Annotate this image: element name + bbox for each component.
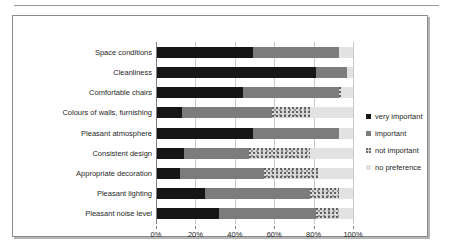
bar-segment xyxy=(339,188,353,199)
legend-swatch-icon xyxy=(366,165,371,170)
bar-segment xyxy=(219,208,316,219)
bar-segment xyxy=(316,67,348,78)
bar-segment xyxy=(180,168,265,179)
gridline xyxy=(353,42,354,224)
chart-page: Space conditionsCleanlinessComfortable c… xyxy=(0,0,453,250)
category-label: Consistent design xyxy=(27,149,152,158)
bar-segment xyxy=(310,148,353,159)
bar-segment xyxy=(339,47,353,58)
category-label: Pleasant lighting xyxy=(27,189,152,198)
bar-segment xyxy=(156,87,243,98)
x-axis-tick-labels: 0%20%40%60%80%100% xyxy=(156,226,353,240)
legend-item[interactable]: not important xyxy=(366,146,438,155)
category-label: Cleanliness xyxy=(27,68,152,77)
y-axis-category-labels: Space conditionsCleanlinessComfortable c… xyxy=(27,42,152,224)
bar-segment xyxy=(243,87,340,98)
bar-segment xyxy=(249,148,310,159)
x-axis-tick-label: 40% xyxy=(227,230,242,240)
bar-segment xyxy=(253,128,340,139)
x-axis-tick-label: 20% xyxy=(188,230,203,240)
x-axis-tick-mark xyxy=(156,226,157,229)
bar-segment xyxy=(272,107,309,118)
bar-segment xyxy=(156,208,219,219)
legend-swatch-icon xyxy=(366,148,371,153)
bar-segment xyxy=(156,67,316,78)
bar-segment xyxy=(156,107,182,118)
legend-swatch-icon xyxy=(366,114,371,119)
bar-row xyxy=(156,208,353,219)
category-label: Space conditions xyxy=(27,48,152,57)
bar-segment xyxy=(341,87,353,98)
category-label: Pleasant atmosphere xyxy=(27,129,152,138)
category-label: Appropriate decoration xyxy=(27,169,152,178)
category-label: Pleasant noise level xyxy=(27,209,152,218)
plot-area xyxy=(156,42,353,224)
legend-swatch-icon xyxy=(366,131,371,136)
bar-row xyxy=(156,47,353,58)
bar-row xyxy=(156,168,353,179)
bar-row xyxy=(156,87,353,98)
legend-label: no preference xyxy=(375,163,421,172)
bar-segment xyxy=(339,128,353,139)
bar-segment xyxy=(316,208,340,219)
bar-row xyxy=(156,128,353,139)
x-axis-tick-mark xyxy=(274,226,275,229)
bar-segment xyxy=(156,47,253,58)
legend-label: important xyxy=(375,129,406,138)
bar-rows xyxy=(156,42,353,224)
legend-item[interactable]: important xyxy=(366,129,438,138)
bar-segment xyxy=(205,188,309,199)
x-axis-tick-mark xyxy=(235,226,236,229)
x-axis-tick-label: 0% xyxy=(151,230,162,240)
bar-segment xyxy=(310,107,353,118)
legend-label: not important xyxy=(375,146,419,155)
bar-row xyxy=(156,148,353,159)
chart-frame: Space conditionsCleanlinessComfortable c… xyxy=(12,15,428,237)
category-label: Comfortable chairs xyxy=(27,88,152,97)
bar-segment xyxy=(156,128,253,139)
legend-item[interactable]: very important xyxy=(366,112,438,121)
category-label: Colours of walls, furnishing xyxy=(27,108,152,117)
chart-legend: very importantimportantnot importantno p… xyxy=(366,112,438,180)
bar-segment xyxy=(156,188,205,199)
bar-segment xyxy=(347,67,353,78)
x-axis-tick-mark xyxy=(353,226,354,229)
y-axis-line xyxy=(156,42,157,224)
bar-segment xyxy=(156,148,184,159)
bar-segment xyxy=(182,107,273,118)
bar-segment xyxy=(339,208,353,219)
bar-segment xyxy=(310,188,340,199)
bar-row xyxy=(156,67,353,78)
bar-segment xyxy=(253,47,340,58)
bar-segment xyxy=(156,168,180,179)
bar-row xyxy=(156,188,353,199)
bar-segment xyxy=(184,148,249,159)
x-axis-tick-label: 80% xyxy=(306,230,321,240)
bar-segment xyxy=(264,168,317,179)
legend-label: very important xyxy=(375,112,423,121)
bar-row xyxy=(156,107,353,118)
x-axis-tick-mark xyxy=(195,226,196,229)
legend-item[interactable]: no preference xyxy=(366,163,438,172)
x-axis-tick-label: 100% xyxy=(343,230,362,240)
bar-segment xyxy=(318,168,353,179)
x-axis-tick-mark xyxy=(314,226,315,229)
top-divider xyxy=(14,5,439,6)
x-axis-tick-label: 60% xyxy=(267,230,282,240)
